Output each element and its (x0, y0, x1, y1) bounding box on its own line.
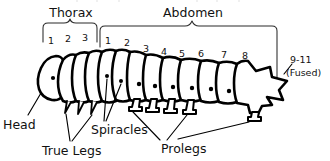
prolegs-label: Prolegs (161, 141, 206, 156)
thorax-segment-number-3: 3 (82, 32, 88, 43)
abdomen-segment-number-4: 4 (161, 46, 167, 57)
abdomen-segment-number-7: 7 (221, 49, 227, 60)
abdomen-segment-number-1: 1 (105, 35, 111, 46)
spiracle-dot-a6 (190, 86, 194, 90)
abdomen-label: Abdomen (163, 5, 223, 20)
fused-segments-label-line1: 9-11 (290, 54, 312, 65)
leader-true-legs-right (72, 115, 92, 141)
head-eye-dot (51, 76, 55, 80)
spiracle-dot-a1 (105, 74, 109, 78)
leader-proleg-rear (178, 122, 249, 139)
abdomen-segment-number-2: 2 (124, 37, 130, 48)
abdomen-segment-number-6: 6 (198, 48, 204, 59)
spiracle-dot-a8 (227, 89, 231, 93)
spiracle-dot-a2 (119, 79, 123, 83)
caterpillar-anatomy-diagram: Thorax Abdomen 1 2 3 1 2 3 4 5 6 7 8 (0, 0, 330, 161)
spiracle-dot-a4 (153, 84, 157, 88)
thorax-segment-numbers: 1 2 3 (48, 32, 88, 46)
true-leg-2 (78, 101, 84, 114)
true-leg-1 (65, 101, 71, 113)
thorax-segment-number-1: 1 (48, 35, 54, 46)
abdomen-segment-number-3: 3 (143, 43, 149, 54)
leader-true-legs-left (66, 114, 70, 141)
leader-proleg-mid (167, 115, 187, 140)
diagram-canvas: Thorax Abdomen 1 2 3 1 2 3 4 5 6 7 8 (0, 0, 330, 161)
spiracle-dot-a7 (209, 87, 213, 91)
abdomen-segment-number-8: 8 (242, 50, 248, 61)
clipped-text-artifact-top (76, 0, 240, 2)
spiracles-label: Spiracles (91, 122, 148, 137)
leader-head (28, 93, 41, 115)
true-legs-label: True Legs (41, 143, 101, 158)
spiracle-dot-a5 (171, 85, 175, 89)
head-label: Head (3, 117, 36, 132)
abdomen-segment-number-5: 5 (179, 48, 185, 59)
thorax-label: Thorax (48, 5, 92, 20)
fused-segments-label-line2: (Fused) (286, 67, 321, 78)
true-leg-3 (91, 101, 97, 114)
spiracle-dot-a3 (137, 82, 141, 86)
true-legs-group (65, 101, 97, 114)
thorax-segment-number-2: 2 (65, 33, 71, 44)
terminal-segment-9-11-fused (234, 61, 287, 114)
